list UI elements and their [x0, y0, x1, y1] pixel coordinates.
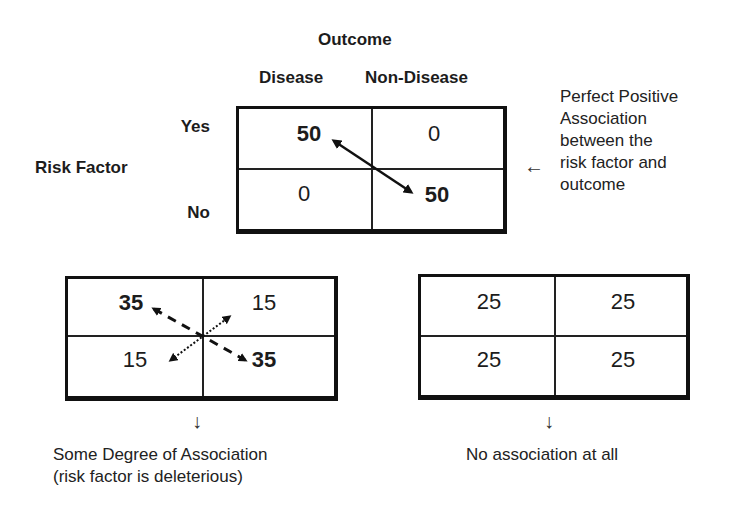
annotation-line: between the	[560, 130, 678, 152]
annotation-perfect-association: Perfect Positive Association between the…	[560, 86, 678, 196]
double-arrow-dotted-icon	[171, 317, 229, 360]
annotation-line: outcome	[560, 174, 678, 196]
double-arrow-dashed-icon	[154, 309, 245, 360]
annotation-no-association: No association at all	[466, 444, 618, 466]
down-arrow-icon: ↓	[192, 410, 202, 433]
double-arrow-solid-icon	[334, 141, 411, 192]
annotation-line: No association at all	[466, 444, 618, 466]
left-arrow-icon: ←	[524, 155, 544, 178]
annotation-line: Some Degree of Association	[53, 444, 268, 466]
annotation-line: (risk factor is deleterious)	[53, 466, 268, 488]
annotation-line: Perfect Positive	[560, 86, 678, 108]
annotation-line: Association	[560, 108, 678, 130]
annotation-line: risk factor and	[560, 152, 678, 174]
down-arrow-icon: ↓	[544, 410, 554, 433]
annotation-some-association: Some Degree of Association (risk factor …	[53, 444, 268, 488]
